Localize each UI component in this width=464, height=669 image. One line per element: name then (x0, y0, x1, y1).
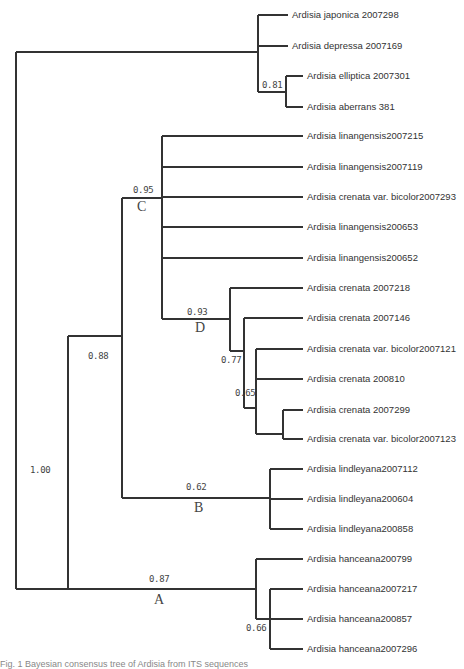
tip-label: Ardisia linangensis2007215 (307, 130, 423, 142)
tip-label: Ardisia hanceana2007296 (307, 643, 417, 655)
tip-label: Ardisia depressa 2007169 (292, 40, 402, 52)
tip-label: Ardisia hanceana2007217 (307, 583, 417, 595)
support-value: 0.87 (149, 574, 169, 585)
tip-label: Ardisia hanceana200799 (307, 553, 412, 565)
support-value: 0.77 (221, 355, 241, 366)
tip-label: Ardisia hanceana200857 (307, 613, 412, 625)
support-value: 0.62 (186, 482, 206, 493)
tip-label: Ardisia crenata var. bicolor2007293 (307, 191, 456, 203)
support-value: 0.93 (187, 307, 207, 318)
support-value: 0.66 (246, 623, 266, 634)
tip-label: Ardisia linangensis200653 (307, 221, 418, 233)
clade-label: C (137, 199, 146, 215)
tip-label: Ardisia lindleyana2007112 (307, 463, 418, 475)
figure-caption: Fig. 1 Bayesian consensus tree of Ardisi… (0, 659, 248, 669)
tip-label: Ardisia linangensis2007119 (307, 161, 423, 173)
support-value: 0.65 (235, 388, 255, 399)
support-value: 0.95 (133, 185, 153, 196)
support-value: 0.88 (88, 351, 108, 362)
tip-label: Ardisia crenata 200810 (307, 373, 405, 385)
clade-label: D (195, 320, 205, 336)
tip-label: Ardisia elliptica 2007301 (307, 70, 410, 82)
support-value: 1.00 (30, 465, 50, 476)
tip-label: Ardisia linangensis200652 (307, 252, 418, 264)
clade-label: A (154, 592, 164, 608)
support-value: 0.81 (262, 80, 282, 91)
tip-label: Ardisia crenata var. bicolor2007121 (307, 343, 456, 355)
tip-label: Ardisia lindleyana200858 (307, 523, 413, 535)
tip-label: Ardisia crenata 2007146 (307, 312, 410, 324)
tip-label: Ardisia aberrans 381 (307, 101, 395, 113)
tip-label: Ardisia crenata 2007299 (307, 404, 410, 416)
tip-label: Ardisia crenata 2007218 (307, 282, 410, 294)
tip-label: Ardisia crenata var. bicolor2007123 (307, 433, 456, 445)
tip-label: Ardisia japonica 2007298 (292, 9, 399, 21)
tip-label: Ardisia lindleyana200604 (307, 493, 413, 505)
clade-label: B (194, 500, 203, 516)
